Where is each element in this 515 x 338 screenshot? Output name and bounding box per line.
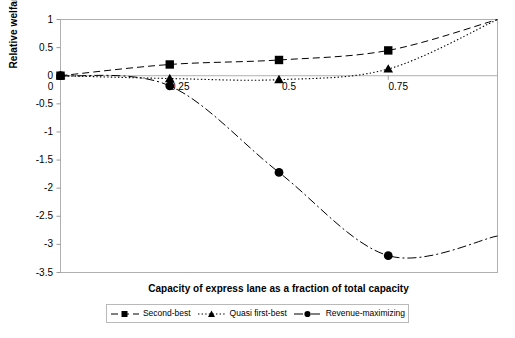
square-marker [121,311,127,317]
legend-item-revenue-maximizing[interactable]: Revenue-maximizing [293,309,405,319]
triangle-marker [197,309,227,319]
chart-figure: Relative welfare gain 10.50-0.5-1-1.5-2-… [0,0,515,338]
series-layer [56,20,498,261]
y-tick-label: -1 [19,127,53,137]
series-line [61,75,498,258]
x-tick-label: 0.5 [269,82,309,92]
legend-item-quasi-first-best[interactable]: Quasi first-best [197,309,287,319]
x-tick-label: 0 [31,82,71,92]
caption-strip [4,330,234,337]
y-tick-label: -3.5 [19,268,53,278]
circle-marker [275,168,284,177]
y-tick-label: 0 [19,71,53,81]
square-marker [166,60,174,68]
square-marker [384,46,392,54]
square-marker [110,309,140,319]
circle-marker [384,251,393,260]
series-quasi-first-best [56,20,498,84]
circle-marker [293,309,323,319]
chart-legend: Second-bestQuasi first-bestRevenue-maxim… [106,304,409,323]
series-second-best [56,20,497,80]
series-line [61,20,498,76]
series-line [61,20,498,81]
y-tick-label: -3 [19,239,53,249]
y-tick-label: -0.5 [19,99,53,109]
legend-item-second-best[interactable]: Second-best [110,309,191,319]
legend-item-label: Quasi first-best [230,309,287,318]
legend-item-label: Revenue-maximizing [326,309,405,318]
y-tick-label: -2 [19,183,53,193]
tick-marks [57,20,389,273]
y-tick-label: 1 [19,15,53,25]
square-marker [275,56,283,64]
circle-marker [56,71,65,80]
legend-item-label: Second-best [143,309,191,318]
x-tick-label: 0.25 [160,82,200,92]
series-revenue-maximizing [56,71,497,260]
x-tick-label: 0.75 [378,82,418,92]
y-tick-label: -1.5 [19,155,53,165]
y-tick-label: -2.5 [19,211,53,221]
circle-marker [304,310,310,316]
x-axis-title: Capacity of express lane as a fraction o… [60,283,497,294]
y-tick-label: 0.5 [19,43,53,53]
